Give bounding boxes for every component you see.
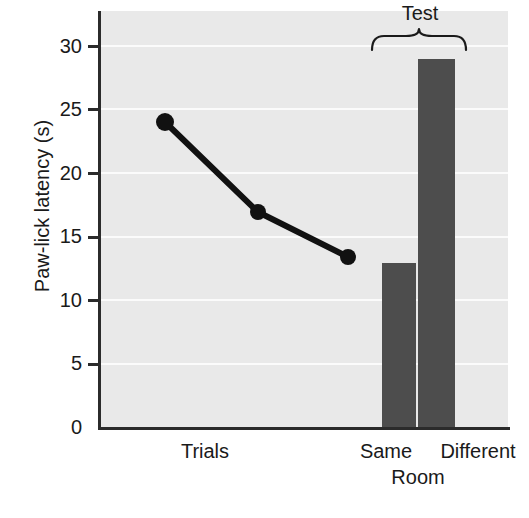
y-tick-label-30: 30 — [38, 36, 82, 56]
y-tick-label-15: 15 — [38, 226, 82, 246]
test-bracket-icon — [370, 28, 470, 52]
chart-figure: Paw-lick latency (s) 30 25 20 15 10 5 0 — [0, 0, 529, 518]
y-axis-line — [98, 11, 101, 430]
y-tick-label-10: 10 — [38, 290, 82, 310]
data-point-trial-1[interactable] — [156, 113, 174, 131]
y-tick-label-0: 0 — [38, 417, 82, 437]
x-label-different: Different — [427, 440, 529, 462]
data-point-trial-3[interactable] — [340, 249, 356, 265]
x-label-trials: Trials — [140, 440, 270, 462]
trials-line — [165, 122, 348, 257]
x-group-label-room: Room — [353, 466, 483, 488]
x-label-same: Same — [341, 440, 431, 462]
y-tick-label-25: 25 — [38, 99, 82, 119]
trials-line-series — [100, 11, 508, 428]
x-axis-line — [98, 427, 510, 430]
y-tick-label-20: 20 — [38, 163, 82, 183]
y-tick-label-5: 5 — [38, 353, 82, 373]
data-point-trial-2[interactable] — [250, 204, 266, 220]
plot-area — [100, 11, 508, 428]
test-bracket-label: Test — [370, 2, 470, 24]
